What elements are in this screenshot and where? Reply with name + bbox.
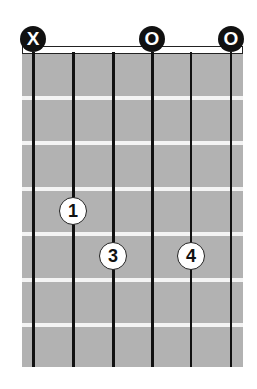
fret-line [22,323,243,327]
muted-string-icon: X [20,26,46,52]
open-string-icon: O [218,26,244,52]
finger-dot: 4 [177,242,205,270]
string-4 [151,52,154,367]
fret-line [22,232,243,236]
string-1 [32,52,35,367]
finger-dot: 1 [59,197,87,225]
string-3 [112,52,115,367]
fretboard [22,54,243,367]
finger-dot: 3 [99,242,127,270]
fret-line [22,96,243,100]
fret-line [22,187,243,191]
nut [22,46,243,54]
fret-line [22,278,243,282]
open-string-icon: O [139,26,165,52]
string-6 [230,52,232,367]
string-5 [190,52,192,367]
fret-line [22,141,243,145]
